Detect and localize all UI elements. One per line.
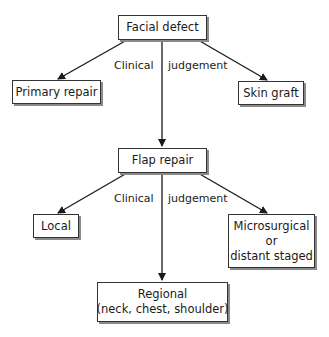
edge-label-clinical: Clinical <box>114 59 154 72</box>
node-label-line1: Regional <box>138 287 188 302</box>
node-primary-repair: Primary repair <box>12 80 101 104</box>
node-label: Flap repair <box>132 153 194 168</box>
node-label: Facial defect <box>126 20 198 35</box>
node-microsurgical: Microsurgical or distant staged <box>228 214 315 268</box>
node-skin-graft: Skin graft <box>238 81 304 105</box>
edge-label-judgement: judgement <box>168 192 228 205</box>
node-label: Skin graft <box>243 86 299 101</box>
edge-label-judgement: judgement <box>168 59 228 72</box>
node-local: Local <box>33 214 79 238</box>
node-label: Local <box>41 219 71 234</box>
node-regional: Regional (neck, chest, shoulder) <box>97 282 228 322</box>
node-label-line3: distant staged <box>230 249 313 264</box>
node-label-line2: or <box>266 234 278 249</box>
node-label: Primary repair <box>16 85 98 100</box>
edge-label-clinical: Clinical <box>114 192 154 205</box>
node-label-line1: Microsurgical <box>234 219 310 234</box>
node-facial-defect: Facial defect <box>118 15 207 40</box>
node-flap-repair: Flap repair <box>118 148 207 173</box>
node-label-line2: (neck, chest, shoulder) <box>96 302 228 317</box>
